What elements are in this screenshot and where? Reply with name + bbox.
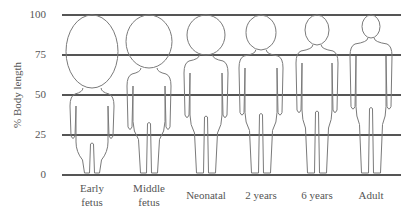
y-tick-0: 0 [16, 168, 46, 180]
body-outline [70, 88, 114, 173]
x-label-2-years: 2 years [231, 188, 291, 202]
head-outline [187, 15, 225, 55]
x-label-adult: Adult [341, 188, 401, 202]
x-label-neonatal: Neonatal [176, 188, 236, 202]
body-outline [296, 45, 338, 173]
y-tick-100: 100 [16, 8, 46, 20]
y-tick-25: 25 [16, 128, 46, 140]
body-outline [127, 68, 171, 173]
head-outline [126, 15, 172, 68]
y-tick-50: 50 [16, 88, 46, 100]
body-outline [184, 55, 228, 173]
body-outline [239, 50, 283, 173]
head-outline [246, 15, 276, 50]
head-outline [66, 15, 118, 88]
x-label-6-years: 6 years [287, 188, 347, 202]
x-label-middle-fetus: Middle fetus [119, 181, 179, 209]
gridlines [62, 15, 401, 175]
head-outline [305, 15, 329, 45]
y-tick-75: 75 [16, 48, 46, 60]
head-outline [362, 15, 380, 38]
body-outline [350, 38, 392, 173]
x-label-early-fetus: Early fetus [62, 181, 122, 209]
